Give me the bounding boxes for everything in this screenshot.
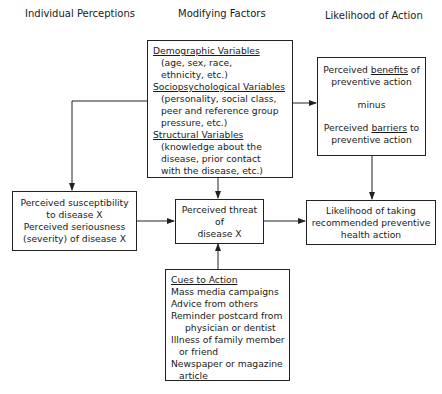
sociopsychological-detail: (personality, social class, [153, 93, 292, 105]
likelihood-line: recommended preventive [307, 217, 435, 229]
cues-to-action-title: Cues to Action [171, 274, 289, 286]
structural-detail: (knowledge about the [153, 141, 292, 153]
demographic-detail: ethnicity, etc.) [153, 69, 292, 81]
likelihood-line: Likelihood of taking [307, 205, 435, 217]
sociopsychological-variables-title: Sociopsychological Variables [153, 81, 292, 93]
header-modifying-factors: Modifying Factors [178, 8, 266, 19]
cue-item-continued: physician or dentist [171, 322, 289, 334]
demographic-detail: (age, sex, race, [153, 57, 292, 69]
structural-variables-title: Structural Variables [153, 129, 292, 141]
cue-item: Reminder postcard from [171, 310, 289, 322]
seriousness-line: Perceived seriousness [13, 221, 136, 233]
susceptibility-line: to disease X [13, 209, 136, 221]
demographic-variables-title: Demographic Variables [153, 45, 292, 57]
susceptibility-line: Perceived susceptibility [13, 197, 136, 209]
likelihood-line: health action [307, 229, 435, 241]
cues-to-action-box: Cues to Action Mass media campaigns Advi… [165, 269, 290, 381]
perceived-benefits-line: Perceived benefits of [318, 64, 425, 76]
cue-item: Mass media campaigns [171, 286, 289, 298]
perceived-barriers-line: Perceived barriers to [318, 122, 425, 134]
cue-item: Advice from others [171, 298, 289, 310]
cue-item-continued: article [171, 370, 289, 382]
header-individual-perceptions: Individual Perceptions [25, 8, 135, 19]
preventive-action-line: preventive action [318, 134, 425, 146]
barriers-word: barriers [371, 122, 407, 133]
structural-detail: with the disease, etc.) [153, 165, 292, 177]
modifying-factors-box: Demographic Variables (age, sex, race, e… [147, 40, 293, 178]
threat-line: of [176, 216, 263, 228]
minus-label: minus [318, 99, 425, 111]
header-likelihood-of-action: Likelihood of Action [325, 10, 423, 21]
perceived-threat-box: Perceived threat of disease X [175, 199, 264, 244]
threat-line: disease X [176, 228, 263, 240]
sociopsychological-detail: pressure, etc.) [153, 117, 292, 129]
sociopsychological-detail: peer and reference group [153, 105, 292, 117]
seriousness-line: (severity) of disease X [13, 233, 136, 245]
perceived-susceptibility-box: Perceived susceptibility to disease X Pe… [12, 191, 137, 251]
benefits-word: benefits [371, 64, 408, 75]
cue-item-continued: or friend [171, 346, 289, 358]
preventive-action-line: preventive action [318, 76, 425, 88]
cue-item: Newspaper or magazine [171, 358, 289, 370]
threat-line: Perceived threat [176, 204, 263, 216]
cue-item: Illness of family member [171, 334, 289, 346]
structural-detail: disease, prior contact [153, 153, 292, 165]
likelihood-of-action-box: Likelihood of taking recommended prevent… [306, 200, 436, 245]
benefits-barriers-box: Perceived benefits of preventive action … [317, 57, 426, 156]
